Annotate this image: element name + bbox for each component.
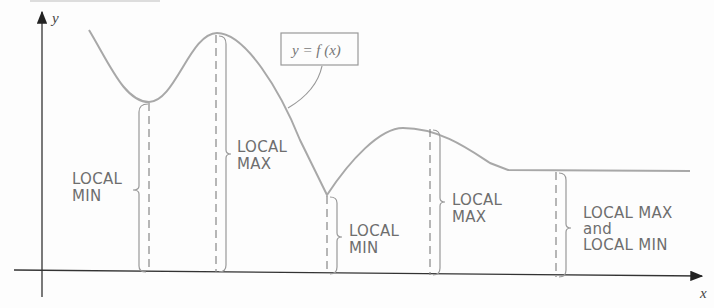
svg-text:LOCAL: LOCAL [72, 170, 123, 188]
function-label: y = f (x) [290, 42, 341, 59]
diagram-canvas: y x y = f (x) LOCAL MIN LOCAL MAX LOCAL … [0, 0, 714, 308]
svg-text:LOCAL: LOCAL [237, 138, 288, 156]
svg-text:MIN: MIN [72, 187, 102, 205]
annotation-local-min-2: LOCAL MIN [349, 222, 400, 257]
function-curve [89, 30, 690, 195]
svg-text:MAX: MAX [452, 208, 486, 226]
svg-text:LOCAL: LOCAL [452, 191, 503, 209]
annotation-local-min-1: LOCAL MIN [72, 170, 123, 205]
x-axis-label: x [699, 285, 707, 301]
annotation-local-max-and-min: LOCAL MAX and LOCAL MIN [583, 204, 673, 254]
svg-text:LOCAL: LOCAL [349, 222, 400, 240]
annotation-local-max-2: LOCAL MAX [452, 191, 503, 226]
svg-text:LOCAL MIN: LOCAL MIN [583, 236, 668, 254]
local-extrema-diagram: y x y = f (x) LOCAL MIN LOCAL MAX LOCAL … [0, 0, 714, 308]
x-axis [14, 270, 702, 276]
annotation-local-max-1: LOCAL MAX [237, 138, 288, 173]
svg-text:MIN: MIN [349, 239, 379, 257]
svg-text:MAX: MAX [237, 155, 271, 173]
function-label-leader [288, 66, 322, 108]
y-axis-label: y [50, 10, 59, 26]
